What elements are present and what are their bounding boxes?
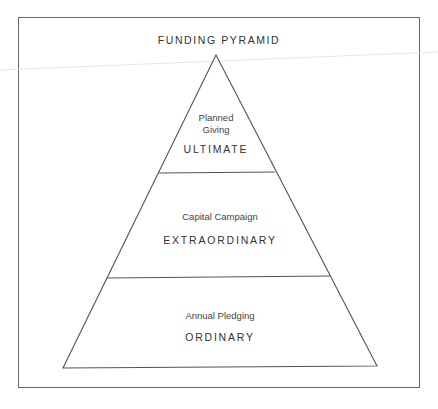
pyramid-shape	[0, 0, 438, 409]
tier-top-name-line2: Giving	[166, 124, 266, 136]
tier-top-name-line1: Planned	[166, 112, 266, 124]
tier-top-level: ULTIMATE	[156, 143, 276, 155]
tier-middle-level: EXTRAORDINARY	[130, 234, 310, 246]
tier-bottom-level: ORDINARY	[140, 331, 300, 343]
diagram-title: FUNDING PYRAMID	[0, 34, 438, 46]
tier-middle-name: Capital Campaign	[140, 211, 300, 223]
tier-bottom-name: Annual Pledging	[140, 310, 300, 322]
tier-top-label: Planned Giving	[166, 112, 266, 136]
